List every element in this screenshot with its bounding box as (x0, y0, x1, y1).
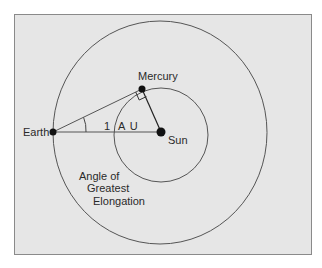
distance-number: 1 (104, 120, 110, 132)
caption-line-3: Elongation (93, 195, 145, 207)
distance-unit: A U (118, 120, 139, 132)
elongation-angle-arc (84, 117, 86, 132)
mercury-label: Mercury (138, 70, 178, 82)
mercury-sun-line (142, 89, 161, 132)
sun-dot (157, 128, 166, 137)
earth-dot (50, 129, 57, 136)
caption-line-1: Angle of (79, 170, 119, 182)
sun-label: Sun (168, 134, 188, 146)
caption-line-2: Greatest (87, 182, 129, 194)
earth-label: Earth (23, 126, 49, 138)
mercury-dot (139, 86, 146, 93)
